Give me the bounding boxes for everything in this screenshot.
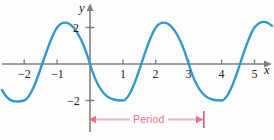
x-tick-label-neg2: −2 <box>18 68 31 80</box>
x-tick-label-neg1: −1 <box>51 68 64 80</box>
period-annotation-label: Period <box>130 114 168 125</box>
x-tick-label-2: 2 <box>153 68 159 80</box>
x-axis-label: x <box>264 64 270 77</box>
y-tick-label-2: 2 <box>73 22 79 34</box>
x-tick-label-4: 4 <box>219 68 225 80</box>
x-tick-label-1: 1 <box>120 68 126 80</box>
y-tick-label-neg2: −2 <box>67 95 80 107</box>
y-axis-label: y <box>79 2 85 15</box>
x-tick-label-3: 3 <box>186 68 192 80</box>
x-tick-label-5: 5 <box>252 68 258 80</box>
figure-cosine-graph: −2 −1 1 2 3 4 5 2 −2 y x Period <box>0 0 274 140</box>
cosine-curve <box>2 22 272 102</box>
